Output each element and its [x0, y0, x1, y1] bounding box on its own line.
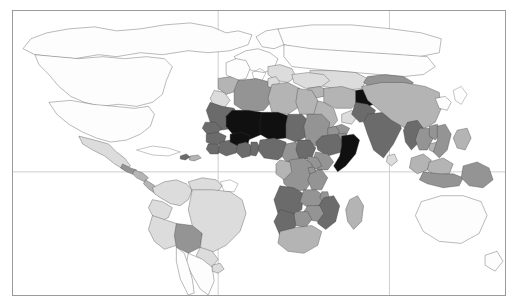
- region-southern-africa: [274, 152, 364, 253]
- country-madagascar: [346, 196, 364, 230]
- country-cuba: [136, 146, 180, 156]
- world-choropleth-figure: [0, 0, 518, 307]
- country-canada: [35, 55, 172, 107]
- country-indonesia-sumatra: [409, 154, 431, 174]
- country-dominican-republic: [189, 155, 201, 161]
- country-sri-lanka: [386, 154, 397, 166]
- country-japan: [453, 86, 467, 104]
- country-haiti: [180, 154, 190, 160]
- region-south-america: [148, 178, 246, 295]
- country-united-states: [49, 100, 155, 142]
- country-canada-arctic: [23, 23, 252, 59]
- country-uruguay: [212, 263, 224, 273]
- country-new-zealand: [485, 251, 503, 271]
- country-australia: [415, 196, 487, 244]
- country-indonesia-java: [419, 172, 463, 188]
- country-ghana: [236, 142, 252, 158]
- country-guyanas: [220, 180, 238, 192]
- world-map-svg: [13, 11, 505, 295]
- country-papua-new-guinea: [461, 162, 493, 188]
- country-iran: [324, 86, 360, 108]
- country-libya: [268, 82, 300, 114]
- country-philippines: [453, 128, 471, 150]
- map-frame: [12, 10, 506, 296]
